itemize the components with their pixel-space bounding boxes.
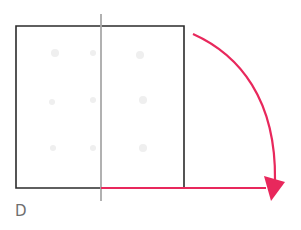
rotation-arc <box>193 34 275 180</box>
figure-label: D <box>15 204 27 219</box>
square-outline <box>16 26 184 188</box>
arrowhead-icon <box>264 176 285 201</box>
rotation-diagram <box>0 0 301 230</box>
ghost-marks <box>49 49 147 152</box>
